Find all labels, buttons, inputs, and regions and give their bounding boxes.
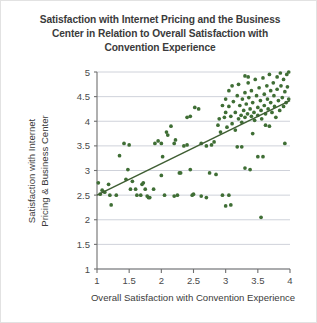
data-point bbox=[233, 111, 237, 115]
x-tick-label: 2.5 bbox=[187, 275, 200, 286]
trend-line bbox=[97, 101, 290, 196]
data-point bbox=[131, 179, 135, 183]
data-point bbox=[230, 122, 234, 126]
data-point bbox=[210, 143, 214, 147]
x-tick-label: 3 bbox=[223, 275, 228, 286]
x-axis-label: Overall Satisfaction with Convention Exp… bbox=[91, 292, 295, 303]
data-point bbox=[134, 187, 138, 191]
data-point bbox=[159, 174, 163, 178]
data-point bbox=[283, 142, 287, 146]
data-point bbox=[251, 132, 255, 136]
data-point bbox=[235, 145, 239, 149]
data-point bbox=[139, 193, 143, 197]
data-point bbox=[224, 204, 228, 208]
data-point bbox=[277, 99, 281, 103]
data-point bbox=[259, 215, 263, 219]
data-point bbox=[107, 182, 111, 186]
y-axis-label-line-2: Pricing & Business Center bbox=[39, 114, 50, 226]
data-point bbox=[240, 145, 244, 149]
y-tick-label: 2.5 bbox=[77, 190, 90, 201]
data-point bbox=[188, 114, 192, 118]
data-point bbox=[143, 187, 147, 191]
data-point bbox=[271, 81, 275, 85]
data-point bbox=[264, 123, 268, 127]
data-point bbox=[250, 89, 254, 93]
data-point bbox=[122, 142, 126, 146]
data-point bbox=[188, 168, 192, 172]
data-point bbox=[283, 90, 287, 94]
data-point bbox=[272, 94, 276, 98]
data-point bbox=[153, 142, 157, 146]
data-point bbox=[265, 84, 269, 88]
data-point bbox=[259, 99, 263, 103]
data-point bbox=[268, 124, 272, 128]
data-point bbox=[227, 193, 231, 197]
data-point bbox=[269, 101, 273, 105]
data-point bbox=[172, 194, 176, 198]
data-point bbox=[114, 193, 118, 197]
data-point bbox=[152, 187, 156, 191]
data-point bbox=[224, 97, 228, 101]
data-point bbox=[197, 107, 201, 111]
data-point bbox=[179, 171, 183, 175]
data-point bbox=[109, 203, 113, 207]
data-point bbox=[129, 187, 133, 191]
data-point bbox=[148, 196, 152, 200]
data-point bbox=[251, 101, 255, 105]
data-point bbox=[243, 91, 247, 95]
data-point bbox=[250, 114, 254, 118]
data-point bbox=[279, 84, 283, 88]
data-point bbox=[192, 192, 196, 196]
data-point bbox=[261, 155, 265, 159]
data-point bbox=[280, 96, 284, 100]
data-point bbox=[227, 89, 231, 93]
data-point bbox=[248, 107, 252, 111]
chart-figure: Satisfaction with Internet Pricing and t… bbox=[0, 0, 317, 323]
data-point bbox=[229, 114, 233, 118]
data-point bbox=[185, 143, 189, 147]
data-point bbox=[244, 102, 248, 106]
data-point bbox=[269, 89, 273, 93]
x-tick-label: 2 bbox=[159, 275, 164, 286]
x-axis-ticks: 11.522.533.54 bbox=[94, 269, 292, 286]
data-point bbox=[205, 144, 209, 148]
data-point bbox=[212, 140, 216, 144]
data-point bbox=[118, 154, 122, 158]
data-point bbox=[225, 125, 229, 129]
data-point bbox=[174, 138, 178, 142]
data-point bbox=[176, 193, 180, 197]
data-point bbox=[266, 97, 270, 101]
y-tick-label: 4.5 bbox=[77, 91, 90, 102]
y-tick-label: 3 bbox=[85, 165, 90, 176]
data-point bbox=[224, 111, 228, 115]
data-point bbox=[156, 139, 160, 143]
data-point bbox=[261, 76, 265, 80]
scatter-plot: 11.522.533.544.55 11.522.533.54 Satisfac… bbox=[1, 1, 317, 323]
x-tick-label: 4 bbox=[287, 275, 292, 286]
data-point bbox=[287, 70, 291, 74]
data-point bbox=[229, 203, 233, 207]
data-point bbox=[247, 96, 251, 100]
data-point bbox=[268, 73, 272, 77]
x-tick-label: 3.5 bbox=[251, 275, 264, 286]
data-point bbox=[275, 75, 279, 79]
data-point bbox=[214, 173, 218, 177]
data-point bbox=[262, 92, 266, 96]
data-point bbox=[274, 115, 278, 119]
data-point bbox=[275, 87, 279, 91]
data-point bbox=[232, 100, 236, 104]
data-point bbox=[141, 181, 145, 185]
x-tick-label: 1.5 bbox=[123, 275, 136, 286]
data-point bbox=[208, 171, 212, 175]
data-point bbox=[259, 109, 263, 113]
y-tick-label: 1 bbox=[85, 264, 90, 275]
data-point bbox=[221, 104, 225, 108]
data-point bbox=[127, 143, 131, 147]
data-point bbox=[182, 144, 186, 148]
data-point bbox=[252, 111, 256, 115]
data-point bbox=[243, 115, 247, 119]
data-point bbox=[135, 193, 139, 197]
data-point bbox=[221, 193, 225, 197]
data-point bbox=[257, 86, 261, 90]
y-tick-label: 5 bbox=[85, 67, 90, 78]
